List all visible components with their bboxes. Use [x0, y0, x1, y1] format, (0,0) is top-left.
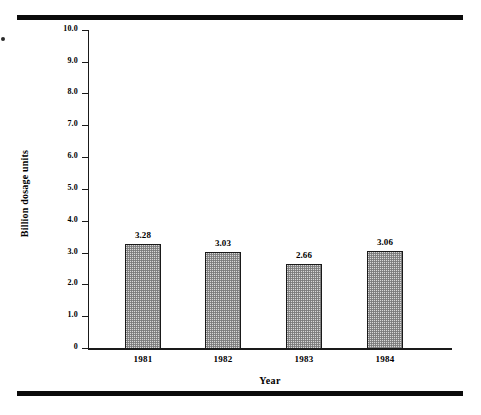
y-axis-tick — [82, 253, 88, 254]
y-axis-line — [88, 30, 89, 348]
page-margin-speck — [1, 37, 5, 41]
y-axis-title: Billion dosage units — [19, 129, 30, 259]
bar-1983 — [286, 264, 322, 349]
y-axis-tick — [82, 30, 88, 31]
x-axis-tick-label-1984: 1984 — [355, 355, 415, 364]
bottom-divider-rule — [17, 391, 463, 396]
y-axis-tick-label: 0 — [48, 343, 78, 351]
top-divider-rule — [17, 15, 463, 20]
bar-1984 — [367, 251, 403, 349]
y-axis-tick-label: 2.0 — [48, 279, 78, 287]
y-axis-tick-label: 10.0 — [48, 25, 78, 33]
bar-1981 — [125, 244, 161, 349]
bar-value-1984: 3.06 — [355, 238, 415, 247]
y-axis-tick — [82, 189, 88, 190]
bar-1982 — [205, 252, 241, 349]
y-axis-tick-label: 3.0 — [48, 248, 78, 256]
x-axis-tick-label-1981: 1981 — [113, 355, 173, 364]
y-axis-tick-label: 5.0 — [48, 184, 78, 192]
y-axis-tick — [82, 125, 88, 126]
bar-value-1982: 3.03 — [193, 239, 253, 248]
x-axis-title: Year — [88, 375, 452, 386]
y-axis-tick-label: 9.0 — [48, 57, 78, 65]
y-axis-tick — [82, 93, 88, 94]
y-axis-tick-label: 6.0 — [48, 152, 78, 160]
y-axis-tick-label: 7.0 — [48, 120, 78, 128]
x-axis-tick-label-1982: 1982 — [193, 355, 253, 364]
bar-value-1983: 2.66 — [274, 251, 334, 260]
y-axis-tick — [82, 316, 88, 317]
y-axis-tick — [82, 62, 88, 63]
y-axis-tick-label: 1.0 — [48, 311, 78, 319]
y-axis-tick-label: 4.0 — [48, 216, 78, 224]
y-axis-tick — [82, 348, 88, 349]
y-axis-tick — [82, 157, 88, 158]
y-axis-tick — [82, 284, 88, 285]
bar-value-1981: 3.28 — [113, 231, 173, 240]
y-axis-tick-label: 8.0 — [48, 88, 78, 96]
chart-figure: Billion dosage units 10.0 9.0 8.0 7.0 6.… — [0, 0, 481, 415]
x-axis-tick-label-1983: 1983 — [274, 355, 334, 364]
y-axis-tick — [82, 221, 88, 222]
